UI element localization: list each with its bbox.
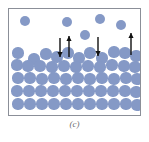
condensation-arrow-right [95, 37, 100, 56]
evaporation-arrow-left [66, 36, 71, 57]
figure-root: (c) [0, 0, 149, 142]
diagram-panel [8, 8, 141, 116]
arrow-layer [9, 9, 140, 115]
figure-caption: (c) [0, 119, 149, 130]
evaporation-arrow-right [128, 33, 133, 55]
condensation-arrow-left [57, 38, 62, 57]
